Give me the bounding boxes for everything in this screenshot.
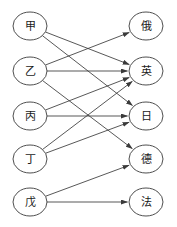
- node-yi[interactable]: 乙: [13, 57, 47, 85]
- node-label-bing: 丙: [25, 110, 36, 123]
- node-label-jia: 甲: [25, 20, 36, 33]
- diagram-canvas: 甲乙丙丁戊俄英日德法: [0, 0, 177, 227]
- node-label-de: 德: [141, 152, 152, 166]
- edge-wu-to-de: [46, 165, 130, 196]
- edge-jia-to-ri: [42, 36, 132, 106]
- node-wu[interactable]: 戊: [13, 188, 47, 216]
- node-e[interactable]: 俄: [129, 12, 163, 40]
- node-ying[interactable]: 英: [129, 57, 163, 85]
- node-label-fa: 法: [141, 195, 152, 209]
- node-label-e: 俄: [141, 20, 152, 33]
- nodes-layer: 甲乙丙丁戊俄英日德法: [13, 12, 163, 216]
- node-label-yi: 乙: [25, 65, 36, 78]
- node-ri[interactable]: 日: [129, 102, 163, 130]
- edges-layer: [42, 32, 132, 202]
- node-bing[interactable]: 丙: [13, 102, 47, 130]
- node-jia[interactable]: 甲: [13, 12, 47, 40]
- node-label-ri: 日: [141, 110, 152, 123]
- node-de[interactable]: 德: [129, 145, 163, 173]
- edge-yi-to-de: [43, 80, 133, 148]
- edge-ding-to-ying: [43, 81, 133, 149]
- node-ding[interactable]: 丁: [13, 145, 47, 173]
- node-fa[interactable]: 法: [129, 188, 163, 216]
- bipartite-diagram: 甲乙丙丁戊俄英日德法: [0, 0, 177, 227]
- node-label-ying: 英: [141, 64, 152, 78]
- edge-yi-to-e: [45, 33, 129, 66]
- node-label-wu: 戊: [25, 196, 36, 209]
- node-label-ding: 丁: [25, 153, 36, 166]
